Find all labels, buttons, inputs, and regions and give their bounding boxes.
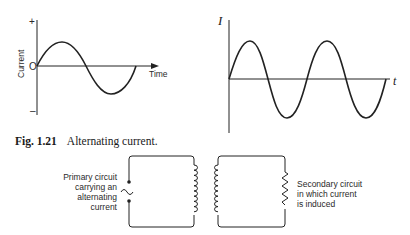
secondary-coil xyxy=(214,165,218,212)
left-sine-curve xyxy=(37,42,136,94)
primary-coil xyxy=(194,165,198,212)
right-graph xyxy=(229,20,390,133)
right-x-axis-label: t xyxy=(393,74,397,88)
left-graph xyxy=(37,20,159,115)
resistor-icon xyxy=(282,172,288,205)
svg-text:Primary circuit: Primary circuit xyxy=(63,172,117,182)
figure-number: Fig. 1.21 xyxy=(15,135,57,147)
terminal-bottom xyxy=(127,199,131,203)
svg-text:Secondary circuit: Secondary circuit xyxy=(297,179,363,189)
right-y-axis-label: I xyxy=(217,13,223,28)
terminal-top xyxy=(127,180,131,184)
left-x-axis-label: Time xyxy=(149,69,168,79)
figure-caption: Fig. 1.21Alternating current. xyxy=(15,135,158,147)
primary-circuit xyxy=(121,156,198,227)
figure-caption-text: Alternating current. xyxy=(67,135,158,147)
svg-text:alternating: alternating xyxy=(77,192,117,202)
svg-text:current: current xyxy=(91,202,118,212)
y-origin-label: O xyxy=(29,61,37,72)
svg-text:carrying an: carrying an xyxy=(75,182,117,192)
svg-text:in which current: in which current xyxy=(297,189,357,199)
svg-text:is induced: is induced xyxy=(297,199,336,209)
secondary-label: Secondary circuit in which current is in… xyxy=(297,179,363,209)
y-minus-label: – xyxy=(30,105,36,116)
secondary-circuit xyxy=(214,156,288,227)
primary-label: Primary circuit carrying an alternating … xyxy=(63,172,117,212)
left-y-axis-label: Current xyxy=(16,49,26,78)
ac-source-icon xyxy=(121,190,133,195)
figure-canvas: + O – Current Time I t Primary circuit c… xyxy=(0,0,410,235)
y-plus-label: + xyxy=(29,16,35,27)
